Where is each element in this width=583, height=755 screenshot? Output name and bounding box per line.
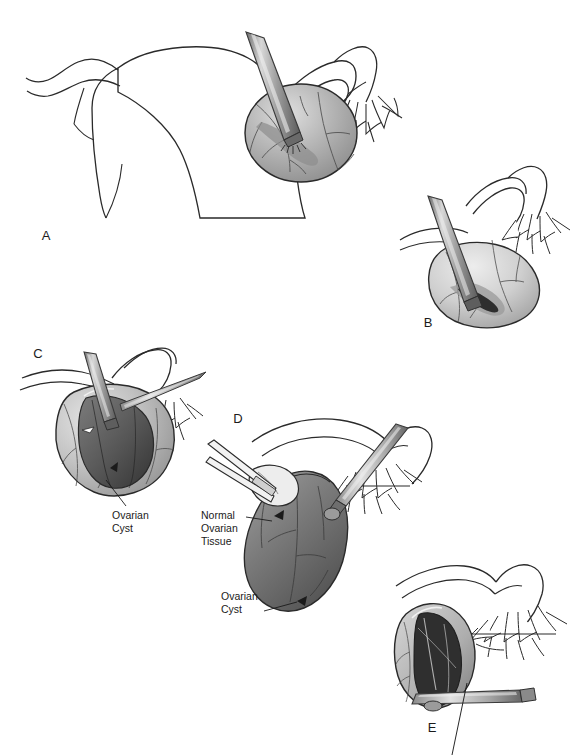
annotation-line-1: Ovarian [112,509,149,521]
panel-letter-b: B [424,315,433,330]
annotation-line-2: Ovarian [201,522,238,534]
figure-canvas: A [0,0,583,755]
panel-letter-d: D [233,411,242,426]
panel-letter-e: E [428,720,437,735]
annotation-line-2: Cyst [112,522,133,534]
annotation-line-3: Tissue [201,535,232,547]
annotation-line-1: Normal [201,509,235,521]
annotation-line-2: Cyst [221,603,242,615]
annotation-line-1: Ovarian [221,590,258,602]
ovarian-cystectomy-figure: A [0,0,583,755]
panel-letter-a: A [42,228,51,243]
panel-letter-c: C [33,346,42,361]
